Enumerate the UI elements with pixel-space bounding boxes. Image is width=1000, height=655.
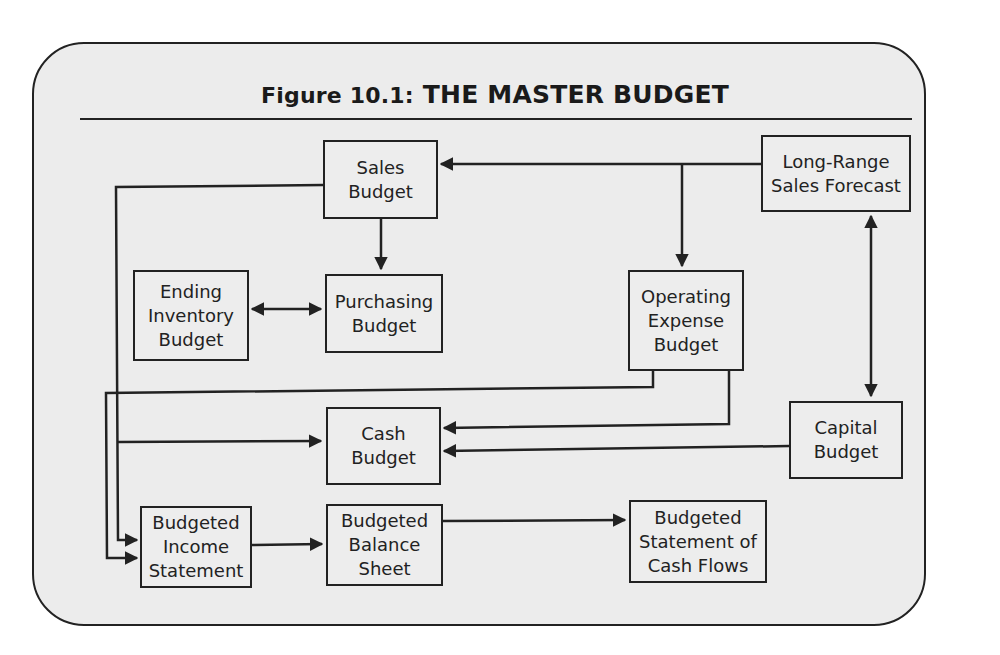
arrow-capital-to-cash [444,446,789,451]
node-budgeted-statement-of-cash-flows: Budgeted Statement of Cash Flows [629,500,767,583]
arrow-opex-to-cash [444,370,729,428]
arrow-balance-to-cashflows [442,520,625,521]
node-operating-expense-budget: Operating Expense Budget [628,270,744,371]
arrow-sales-to-income [116,185,323,540]
node-budgeted-income-statement: Budgeted Income Statement [140,506,252,588]
node-budgeted-balance-sheet: Budgeted Balance Sheet [326,504,443,586]
node-capital-budget: Capital Budget [789,401,903,479]
node-cash-budget: Cash Budget [326,407,441,485]
node-ending-inventory-budget: Ending Inventory Budget [133,270,249,361]
node-sales-budget: Sales Budget [323,140,438,219]
arrow-income-to-balance [251,544,322,545]
node-long-range-sales-forecast: Long-Range Sales Forecast [761,135,911,212]
arrow-sales-to-cash [118,441,321,442]
node-purchasing-budget: Purchasing Budget [325,274,443,353]
